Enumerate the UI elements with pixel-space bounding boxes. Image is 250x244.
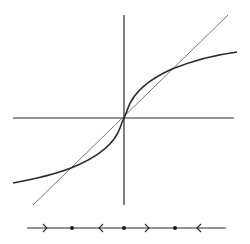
upper-equilibrium-dot [173, 226, 177, 230]
lower-equilibrium-dot [70, 226, 74, 230]
background [0, 0, 250, 244]
phase-diagram [0, 0, 250, 244]
zero-equilibrium-dot [122, 226, 126, 230]
